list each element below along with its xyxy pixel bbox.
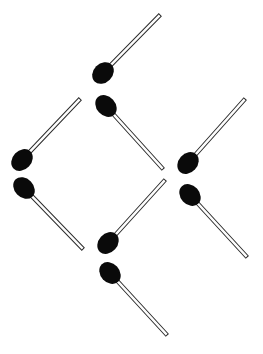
background-rect	[0, 0, 263, 354]
matchstick-figure	[0, 0, 263, 354]
matchstick-figure-canvas	[0, 0, 263, 354]
